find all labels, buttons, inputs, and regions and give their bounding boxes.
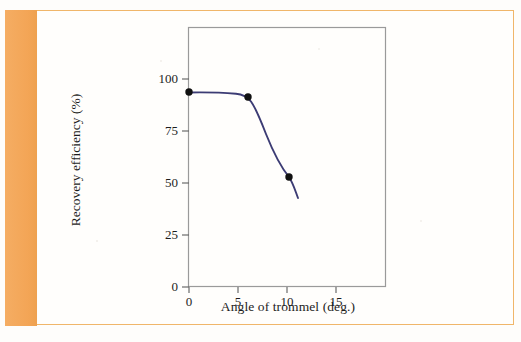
data-point-marker (244, 93, 251, 100)
y-tick-label-100: 100 (144, 71, 178, 87)
data-point-marker (285, 173, 292, 180)
x-axis-title: Angle of trommel (deg.) (188, 299, 388, 315)
x-axis-ticks (189, 287, 336, 293)
y-axis-title: Recovery efficiency (%) (68, 70, 84, 250)
plot-frame-rect (189, 28, 386, 287)
y-tick-label-75: 75 (144, 123, 178, 139)
scanned-page: 100 75 50 25 0 0 5 10 15 Angle of tromme… (0, 0, 521, 342)
chart-figure: 100 75 50 25 0 0 5 10 15 Angle of tromme… (0, 0, 521, 342)
y-tick-label-25: 25 (144, 227, 178, 243)
data-point-marker (185, 88, 192, 95)
y-tick-label-0: 0 (144, 279, 178, 295)
y-tick-label-50: 50 (144, 175, 178, 191)
data-point-markers (185, 88, 292, 180)
data-curve (189, 92, 298, 198)
plot-axes-frame (189, 28, 386, 287)
